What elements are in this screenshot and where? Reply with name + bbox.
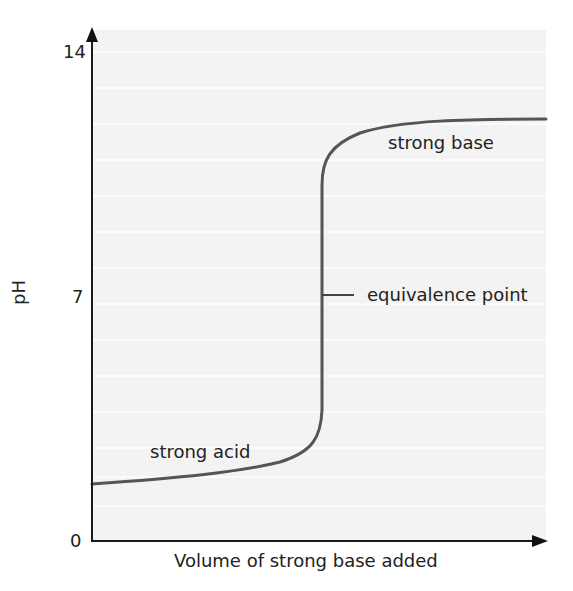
y-tick-label-7: 7 (72, 288, 83, 306)
equivalence-point-label: equivalence point (367, 286, 528, 304)
x-axis-label: Volume of strong base added (174, 552, 438, 570)
y-axis-label: pH (10, 280, 28, 305)
y-tick-label-14: 14 (63, 43, 86, 61)
strong-acid-label: strong acid (150, 443, 250, 461)
y-tick-label-0: 0 (70, 532, 81, 550)
strong-base-label: strong base (388, 134, 494, 152)
